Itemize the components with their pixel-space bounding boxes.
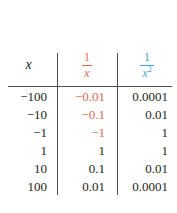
table-row: 1 1 1 bbox=[0, 142, 177, 160]
x-value: 10 bbox=[0, 160, 57, 178]
fraction-1-over-x: 1 x bbox=[84, 51, 90, 79]
recip-sq-value: 0.0001 bbox=[117, 88, 177, 106]
recip-sq-value: 0.0001 bbox=[117, 178, 177, 196]
x-value: 1 bbox=[0, 142, 57, 160]
x-value: 100 bbox=[0, 178, 57, 196]
x-value: −100 bbox=[0, 88, 57, 106]
recip-value: −0.1 bbox=[57, 106, 117, 124]
table-row: −1 −1 1 bbox=[0, 124, 177, 142]
header-rule bbox=[8, 86, 172, 87]
fraction-numerator: 1 bbox=[142, 51, 151, 64]
table-row: 10 0.1 0.01 bbox=[0, 160, 177, 178]
recip-sq-value: 1 bbox=[117, 142, 177, 160]
recip-sq-value: 1 bbox=[117, 124, 177, 142]
recip-sq-value: 0.01 bbox=[117, 106, 177, 124]
recip-sq-value: 0.01 bbox=[117, 160, 177, 178]
header-x-label: x bbox=[25, 57, 31, 75]
fraction-numerator: 1 bbox=[84, 51, 90, 64]
header-one-over-x-squared: 1 x2 bbox=[117, 45, 177, 86]
recip-value: −1 bbox=[57, 124, 117, 142]
table-header: x 1 x 1 x2 bbox=[0, 45, 177, 86]
x-value: −10 bbox=[0, 106, 57, 124]
recip-value: 0.01 bbox=[57, 178, 117, 196]
fraction-denominator: x2 bbox=[142, 67, 151, 80]
recip-value: 1 bbox=[57, 142, 117, 160]
table-body: −100 −0.01 0.0001 −10 −0.1 0.01 −1 −1 1 … bbox=[0, 88, 177, 196]
recip-value: −0.01 bbox=[57, 88, 117, 106]
table-row: 100 0.01 0.0001 bbox=[0, 178, 177, 196]
x-value: −1 bbox=[0, 124, 57, 142]
values-table-figure: x 1 x 1 x2 −100 −0.01 0.0001 −10 −0.1 0 bbox=[0, 0, 177, 213]
header-one-over-x: 1 x bbox=[57, 45, 117, 86]
table-row: −10 −0.1 0.01 bbox=[0, 106, 177, 124]
denominator-exponent: 2 bbox=[148, 65, 152, 74]
table-row: −100 −0.01 0.0001 bbox=[0, 88, 177, 106]
header-x: x bbox=[0, 45, 57, 86]
recip-value: 0.1 bbox=[57, 160, 117, 178]
fraction-1-over-x-squared: 1 x2 bbox=[142, 51, 151, 79]
fraction-denominator: x bbox=[84, 67, 90, 80]
